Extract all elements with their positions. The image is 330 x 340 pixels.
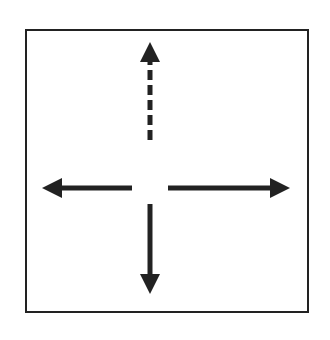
- chessboard: [25, 29, 309, 313]
